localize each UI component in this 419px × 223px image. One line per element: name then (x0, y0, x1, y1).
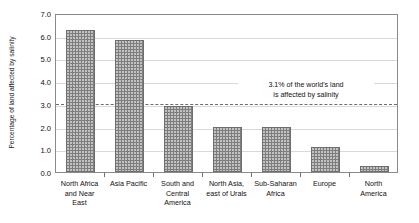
bar-chart: Percentage of land affected by salinity … (0, 0, 419, 223)
x-tick-mark (153, 173, 154, 177)
bar (311, 147, 340, 172)
bar-slot (56, 15, 105, 172)
y-tick-label: 7.0 (27, 10, 51, 19)
annotation-line: 3.1% of the world's land (240, 80, 372, 90)
x-tick-mark (300, 173, 301, 177)
bar-slot (154, 15, 203, 172)
x-tick-mark (104, 173, 105, 177)
bar-slot (105, 15, 154, 172)
x-category-label-line: America (149, 198, 206, 208)
y-tick-label: 5.0 (27, 55, 51, 64)
x-category-label-line: America (345, 189, 402, 199)
y-tick-label: 2.0 (27, 123, 51, 132)
x-category-label-line: and Near (51, 189, 108, 199)
bar (262, 127, 291, 172)
y-tick-label: 3.0 (27, 100, 51, 109)
x-category-label-line: Africa (247, 189, 304, 199)
bar (213, 127, 242, 172)
x-category-label-line: North (345, 179, 402, 189)
x-tick-mark (202, 173, 203, 177)
bar (66, 30, 95, 172)
y-tick-label: 4.0 (27, 78, 51, 87)
y-tick-label: 0.0 (27, 169, 51, 178)
y-tick-label: 1.0 (27, 146, 51, 155)
bar (360, 166, 389, 172)
x-tick-mark (349, 173, 350, 177)
annotation-line: is affected by salinity (240, 90, 372, 100)
bar (115, 40, 144, 172)
y-axis-title: Percentage of land affected by salinity (8, 13, 15, 173)
x-category-label: NorthAmerica (345, 179, 402, 198)
x-tick-mark (251, 173, 252, 177)
x-axis-category-labels: North Africaand NearEastAsia PacificSout… (55, 179, 398, 221)
reference-line-annotation: 3.1% of the world's landis affected by s… (238, 79, 374, 101)
y-tick-label: 6.0 (27, 32, 51, 41)
bar (164, 106, 193, 172)
y-axis-tick-labels: 7.06.05.04.03.02.01.00.0 (26, 0, 51, 223)
x-category-label-line: East (51, 198, 108, 208)
